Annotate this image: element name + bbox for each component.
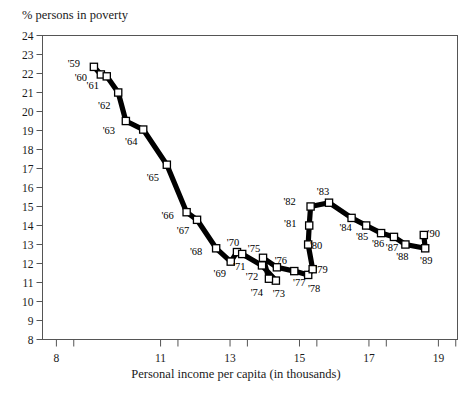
data-marker (183, 209, 190, 216)
data-marker (378, 230, 385, 237)
data-marker (90, 63, 97, 70)
data-point-label: '80 (310, 240, 322, 251)
data-point-label: '68 (190, 246, 202, 257)
x-tick-label: 17 (363, 352, 375, 364)
y-tick-label: 18 (22, 144, 34, 156)
data-marker (265, 275, 272, 282)
data-point-label: '72 (246, 271, 258, 282)
data-marker (272, 277, 279, 284)
data-marker (122, 117, 129, 124)
data-marker (422, 245, 429, 252)
data-point-label: '79 (315, 264, 327, 275)
data-marker (193, 216, 200, 223)
y-tick-label: 21 (22, 87, 34, 99)
data-point-label: '89 (420, 255, 432, 266)
y-axis-ticks (37, 36, 43, 340)
y-tick-label: 19 (22, 125, 34, 137)
data-point-label: '81 (284, 218, 296, 229)
data-point-label: '86 (372, 238, 384, 249)
y-tick-label: 15 (22, 201, 34, 213)
data-point-label: '59 (68, 58, 80, 69)
y-tick-label: 14 (22, 220, 34, 232)
y-tick-label: 22 (22, 68, 34, 80)
data-marker (307, 203, 314, 210)
data-marker (306, 222, 313, 229)
data-point-label: '76 (275, 255, 287, 266)
y-tick-label: 24 (22, 30, 34, 42)
data-point-label: '62 (98, 100, 110, 111)
data-marker (213, 245, 220, 252)
y-axis-tick-labels: 89101112131415161718192021222324 (22, 30, 34, 346)
data-point-label: '63 (103, 125, 115, 136)
data-point-label: '65 (147, 172, 159, 183)
data-point-label: '71 (233, 261, 245, 272)
y-tick-label: 11 (22, 277, 33, 289)
x-axis-ticks (56, 340, 455, 347)
data-point-label: '70 (227, 237, 239, 248)
x-tick-label: 19 (433, 352, 445, 364)
x-axis-tick-labels: 81113151719 (54, 352, 445, 364)
y-tick-label: 10 (22, 296, 34, 308)
data-marker (390, 233, 397, 240)
chart-figure: % persons in poverty 8910111213141516171… (0, 0, 472, 395)
data-marker (325, 199, 332, 206)
data-marker (291, 268, 298, 275)
data-marker (348, 214, 355, 221)
data-point-label: '75 (248, 243, 260, 254)
data-point-label: '61 (87, 80, 99, 91)
data-marker (163, 161, 170, 168)
scatter-line-plot: 89101112131415161718192021222324 8111315… (0, 0, 472, 395)
x-axis-title: Personal income per capita (in thousands… (0, 367, 472, 382)
x-tick-label: 11 (155, 352, 166, 364)
data-point-label: '60 (75, 72, 87, 83)
data-marker (103, 73, 110, 80)
data-point-label: '64 (125, 136, 138, 147)
data-point-label: '83 (317, 186, 329, 197)
data-marker (239, 250, 246, 257)
y-tick-label: 17 (22, 163, 34, 175)
y-tick-label: 9 (28, 315, 34, 327)
data-point-label: '73 (273, 288, 285, 299)
data-point-label: '90 (428, 228, 440, 239)
y-tick-label: 20 (22, 106, 34, 118)
y-tick-label: 23 (22, 49, 34, 61)
data-point-label: '85 (356, 231, 368, 242)
data-point-label: '77 (293, 277, 305, 288)
data-point-label: '69 (214, 268, 226, 279)
data-point-label: '84 (339, 222, 352, 233)
data-marker (258, 262, 265, 269)
data-marker (259, 254, 266, 261)
data-point-label: '88 (396, 251, 408, 262)
data-marker (140, 126, 147, 133)
data-point-label: '74 (251, 287, 264, 298)
data-marker (402, 241, 409, 248)
x-tick-label: 15 (294, 352, 306, 364)
y-tick-label: 8 (28, 334, 34, 346)
data-marker (420, 231, 427, 238)
y-tick-label: 13 (22, 239, 34, 251)
data-point-label: '66 (161, 210, 173, 221)
x-tick-label: 13 (224, 352, 236, 364)
data-marker (363, 222, 370, 229)
data-point-label: '82 (283, 196, 295, 207)
y-tick-label: 12 (22, 258, 34, 270)
data-point-label: '78 (308, 283, 320, 294)
data-marker (115, 89, 122, 96)
data-point-label: '67 (177, 225, 189, 236)
x-tick-label: 8 (54, 352, 60, 364)
y-tick-label: 16 (22, 182, 34, 194)
